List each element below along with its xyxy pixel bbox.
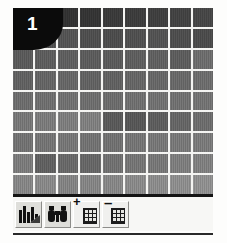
toolbar-bottom-divider bbox=[13, 233, 213, 235]
figure-panel: 1 bbox=[0, 0, 227, 243]
grid-cell[interactable] bbox=[35, 71, 55, 90]
bar-chart-button[interactable] bbox=[15, 201, 42, 228]
grid-cell[interactable] bbox=[80, 50, 100, 69]
grid-cell[interactable] bbox=[103, 175, 123, 194]
grid-cell[interactable] bbox=[35, 175, 55, 194]
grid-cell[interactable] bbox=[193, 154, 213, 173]
grid-cell[interactable] bbox=[125, 175, 145, 194]
grid-cell[interactable] bbox=[148, 133, 168, 152]
grid-cell[interactable] bbox=[80, 133, 100, 152]
grid-cell[interactable] bbox=[103, 71, 123, 90]
grid-cell[interactable] bbox=[13, 50, 33, 69]
grid-cell[interactable] bbox=[13, 71, 33, 90]
grid-cell[interactable] bbox=[148, 71, 168, 90]
grid-cell[interactable] bbox=[170, 112, 190, 131]
grid-cell[interactable] bbox=[170, 175, 190, 194]
grid-cell[interactable] bbox=[80, 8, 100, 27]
grid-cell[interactable] bbox=[125, 8, 145, 27]
grid-cell[interactable] bbox=[170, 133, 190, 152]
grid-cell[interactable] bbox=[193, 133, 213, 152]
grid-cell[interactable] bbox=[148, 92, 168, 111]
add-grid-button[interactable]: + bbox=[73, 201, 100, 228]
remove-grid-button[interactable]: – bbox=[102, 201, 129, 228]
grid-cell[interactable] bbox=[170, 29, 190, 48]
grid-cell[interactable] bbox=[170, 8, 190, 27]
toolbar: + – bbox=[13, 197, 213, 231]
bar-chart-icon bbox=[16, 202, 41, 227]
binoculars-button[interactable] bbox=[44, 201, 71, 228]
grid-cell[interactable] bbox=[58, 92, 78, 111]
grid-cell[interactable] bbox=[58, 154, 78, 173]
grid-cell[interactable] bbox=[103, 92, 123, 111]
grid-cell[interactable] bbox=[35, 29, 55, 48]
grid-cell[interactable] bbox=[13, 92, 33, 111]
grid-cell[interactable] bbox=[35, 112, 55, 131]
grid-cell[interactable] bbox=[58, 133, 78, 152]
grid-cell[interactable] bbox=[125, 154, 145, 173]
grid-cell[interactable] bbox=[193, 92, 213, 111]
grid-cell[interactable] bbox=[13, 29, 33, 48]
matrix-grid-panel[interactable]: 1 bbox=[13, 8, 213, 194]
grid-cell[interactable] bbox=[58, 71, 78, 90]
grid-cell[interactable] bbox=[193, 29, 213, 48]
grid-cell[interactable] bbox=[103, 50, 123, 69]
grid-cell[interactable] bbox=[35, 50, 55, 69]
grid-cell[interactable] bbox=[170, 50, 190, 69]
grid-cell[interactable] bbox=[193, 71, 213, 90]
grid-cell[interactable] bbox=[58, 112, 78, 131]
grid-cell[interactable] bbox=[80, 92, 100, 111]
grid-cell[interactable] bbox=[170, 154, 190, 173]
grid-cell[interactable] bbox=[80, 71, 100, 90]
grid-cell[interactable] bbox=[35, 154, 55, 173]
grid-cell[interactable] bbox=[170, 71, 190, 90]
matrix-grid[interactable] bbox=[13, 8, 213, 194]
grid-cell[interactable] bbox=[193, 175, 213, 194]
grid-cell[interactable] bbox=[148, 8, 168, 27]
grid-cell[interactable] bbox=[148, 50, 168, 69]
binoculars-icon bbox=[45, 202, 70, 227]
grid-cell[interactable] bbox=[148, 154, 168, 173]
grid-cell[interactable] bbox=[80, 175, 100, 194]
grid-cell[interactable] bbox=[80, 29, 100, 48]
grid-cell[interactable] bbox=[103, 112, 123, 131]
grid-cell[interactable] bbox=[103, 29, 123, 48]
grid-cell[interactable] bbox=[35, 133, 55, 152]
minus-sign-label: – bbox=[104, 198, 112, 208]
grid-cell[interactable] bbox=[193, 112, 213, 131]
grid-cell[interactable] bbox=[193, 8, 213, 27]
grid-cell[interactable] bbox=[125, 29, 145, 48]
grid-cell[interactable] bbox=[125, 112, 145, 131]
grid-cell[interactable] bbox=[148, 175, 168, 194]
grid-cell[interactable] bbox=[58, 8, 78, 27]
plus-sign-label: + bbox=[73, 197, 81, 207]
grid-cell[interactable] bbox=[148, 112, 168, 131]
grid-cell[interactable] bbox=[125, 71, 145, 90]
grid-cell[interactable] bbox=[193, 50, 213, 69]
grid-cell[interactable] bbox=[13, 154, 33, 173]
grid-cell[interactable] bbox=[35, 8, 55, 27]
grid-cell[interactable] bbox=[170, 92, 190, 111]
grid-cell[interactable] bbox=[58, 175, 78, 194]
grid-cell[interactable] bbox=[58, 29, 78, 48]
grid-cell[interactable] bbox=[125, 92, 145, 111]
grid-cell[interactable] bbox=[13, 8, 33, 27]
grid-cell[interactable] bbox=[13, 175, 33, 194]
grid-cell[interactable] bbox=[103, 8, 123, 27]
grid-cell[interactable] bbox=[103, 154, 123, 173]
grid-cell[interactable] bbox=[58, 50, 78, 69]
grid-cell[interactable] bbox=[148, 29, 168, 48]
grid-cell[interactable] bbox=[35, 92, 55, 111]
grid-cell[interactable] bbox=[13, 112, 33, 131]
grid-cell[interactable] bbox=[103, 133, 123, 152]
grid-cell[interactable] bbox=[125, 133, 145, 152]
grid-cell[interactable] bbox=[13, 133, 33, 152]
grid-cell[interactable] bbox=[80, 112, 100, 131]
grid-cell[interactable] bbox=[80, 154, 100, 173]
grid-cell[interactable] bbox=[125, 50, 145, 69]
